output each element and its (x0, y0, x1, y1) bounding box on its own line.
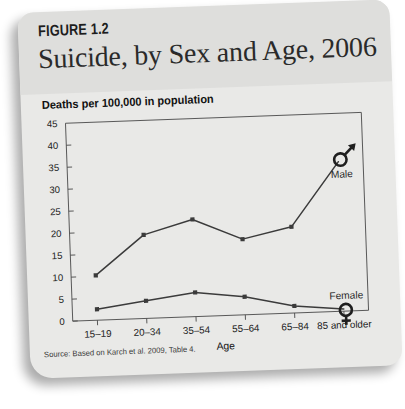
x-tick-label: 55–64 (232, 322, 260, 334)
data-point-marker (289, 225, 293, 229)
data-point-marker (141, 233, 145, 237)
data-point-marker (95, 307, 99, 311)
data-point-marker (240, 237, 244, 241)
x-tick-label: 15–19 (84, 328, 112, 340)
figure-card: FIGURE 1.2 Suicide, by Sex and Age, 2006… (17, 0, 402, 379)
y-tick-label: 5 (58, 294, 64, 305)
series-label-female: Female (329, 289, 364, 301)
x-axis-title: Age (216, 340, 235, 352)
data-point-marker (242, 295, 246, 299)
y-tick-label: 15 (51, 250, 62, 261)
series-line-female (97, 287, 344, 318)
y-tick-label: 25 (50, 206, 61, 217)
y-tick-label: 30 (49, 184, 60, 195)
x-tick-label: 65–84 (281, 320, 309, 332)
y-tick-label: 40 (47, 140, 58, 151)
data-point-marker (193, 290, 197, 294)
plot-frame (65, 112, 368, 321)
data-point-marker (144, 299, 148, 303)
data-point-marker (292, 304, 296, 308)
chart-plot-area: 051015202530354045 15–1920–3435–5455–646… (17, 0, 402, 379)
x-tick-label: 20–34 (133, 326, 161, 338)
series-label-male: Male (331, 168, 354, 180)
y-tick-label: 35 (48, 162, 59, 173)
y-tick-label: 0 (59, 316, 65, 327)
y-tick-label: 10 (52, 272, 63, 283)
series-line-male (92, 162, 342, 276)
y-tick-labels: 051015202530354045 (47, 118, 65, 327)
series-labels-group: MaleFemale (325, 168, 364, 302)
data-series-group (90, 162, 344, 318)
y-tick-label: 20 (51, 228, 62, 239)
line-chart-svg: 051015202530354045 15–1920–3435–5455–646… (17, 0, 402, 379)
data-point-marker (94, 273, 98, 277)
x-tick-labels: 15–1920–3435–5455–6465–8485 and older (84, 318, 372, 340)
x-tick-label: 35–54 (183, 324, 211, 336)
y-tick-label: 45 (47, 118, 58, 129)
data-point-marker (190, 217, 194, 221)
